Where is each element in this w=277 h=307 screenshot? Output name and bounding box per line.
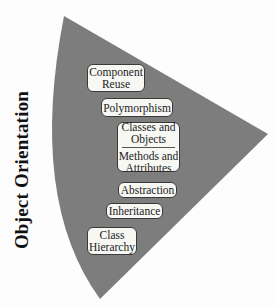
box-text: Objects bbox=[131, 133, 166, 145]
box-text: Methods and bbox=[119, 150, 179, 162]
box-text: Class bbox=[100, 229, 125, 241]
box-classes-methods: Classes and Objects Methods and Attribut… bbox=[117, 122, 180, 172]
box-text: Polymorphism bbox=[103, 102, 171, 114]
box-text: Hierarchy bbox=[89, 241, 135, 253]
box-abstraction: Abstraction bbox=[118, 182, 177, 198]
box-component-reuse: Component Reuse bbox=[87, 64, 145, 92]
diagram-title: Object Orientation bbox=[11, 91, 33, 249]
box-polymorphism: Polymorphism bbox=[101, 98, 173, 117]
box-text: Reuse bbox=[102, 78, 130, 90]
box-divider bbox=[122, 147, 174, 148]
box-text: Abstraction bbox=[121, 184, 175, 196]
box-text: Attributes bbox=[126, 162, 172, 174]
box-class-hierarchy: Class Hierarchy bbox=[87, 227, 137, 255]
box-text: Inheritance bbox=[109, 205, 161, 217]
box-text: Classes and bbox=[122, 121, 176, 133]
box-inheritance: Inheritance bbox=[106, 203, 163, 219]
box-text: Component bbox=[89, 66, 143, 78]
